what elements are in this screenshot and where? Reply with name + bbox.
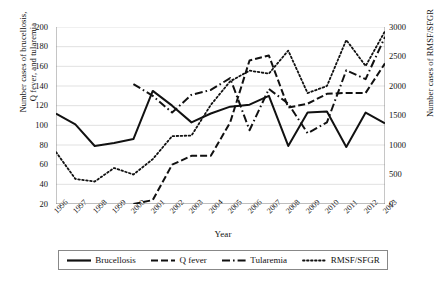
legend-label: Brucellosis — [95, 255, 136, 265]
y-axis-right-tick-label: 2500 — [389, 51, 423, 61]
y-axis-right-tick-label: 3000 — [389, 22, 423, 32]
gridlines — [56, 27, 385, 204]
chart-container: Number cases of brucellosis, Q fever, an… — [0, 0, 446, 281]
y-axis-left-tick-label: 160 — [18, 61, 48, 71]
series-line-tularemia — [133, 37, 385, 133]
axis-lines — [56, 27, 385, 204]
legend-swatch-dashdot-icon — [221, 256, 247, 265]
legend-label: Q fever — [179, 255, 206, 265]
x-axis-title: Year — [0, 229, 446, 239]
series-line-q-fever — [133, 56, 385, 204]
legend-swatch-dotted-icon — [302, 256, 328, 265]
y-axis-left-tick-label: 60 — [18, 159, 48, 169]
y-axis-right-tick-label: 1500 — [389, 110, 423, 120]
series-line-rmsf-sfgr — [56, 31, 385, 181]
y-axis-left-tick-label: 100 — [18, 120, 48, 130]
y-axis-left-tick-label: 180 — [18, 41, 48, 51]
series-lines — [56, 31, 385, 204]
legend-item-brucellosis[interactable]: Brucellosis — [66, 255, 136, 265]
legend-item-tularemia[interactable]: Tularemia — [221, 255, 287, 265]
y-axis-right-tick-label: 500 — [389, 169, 423, 179]
chart-legend: BrucellosisQ feverTularemiaRMSF/SFGR — [58, 250, 388, 270]
y-axis-right-title: Number cases of RMSF/SFGR — [425, 0, 435, 138]
y-axis-left-tick-label: 140 — [18, 81, 48, 91]
plot-area — [56, 27, 385, 204]
legend-label: RMSF/SFGR — [331, 255, 380, 265]
y-axis-right-tick-label: 2000 — [389, 81, 423, 91]
y-axis-left-tick-label: 80 — [18, 140, 48, 150]
legend-item-rmsf-sfgr[interactable]: RMSF/SFGR — [302, 255, 380, 265]
y-axis-left-tick-label: 200 — [18, 22, 48, 32]
legend-swatch-solid-icon — [66, 256, 92, 265]
legend-swatch-dashed-icon — [150, 256, 176, 265]
y-axis-left-tick-label: 120 — [18, 100, 48, 110]
y-axis-left-tick-label: 40 — [18, 179, 48, 189]
legend-item-q-fever[interactable]: Q fever — [150, 255, 206, 265]
legend-label: Tularemia — [250, 255, 287, 265]
y-axis-right-tick-label: 1000 — [389, 140, 423, 150]
y-axis-left-tick-label: 20 — [18, 199, 48, 209]
